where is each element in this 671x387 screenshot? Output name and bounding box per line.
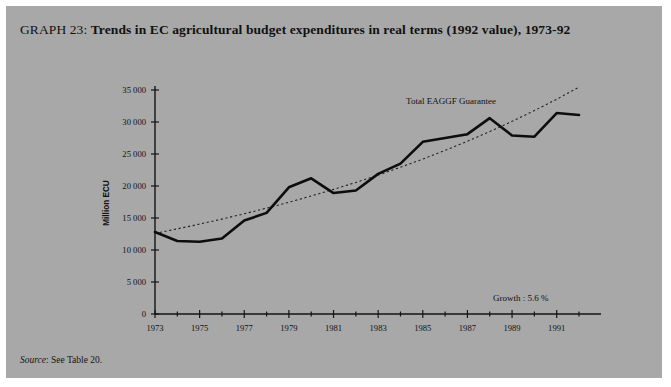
- y-tick-label: 20 000: [122, 181, 146, 191]
- page-canvas: GRAPH 23: Trends in EC agricultural budg…: [6, 6, 662, 378]
- y-tick-label: 0: [142, 309, 146, 319]
- y-tick-label: 35 000: [122, 85, 146, 95]
- x-tick-label: 1977: [236, 323, 254, 333]
- eaggf-guarantee-series: [155, 113, 579, 242]
- x-tick-label: 1991: [548, 323, 565, 333]
- line-chart: 05 00010 00015 00020 00025 00030 00035 0…: [6, 6, 662, 378]
- series-label: Total EAGGF Guarantee: [406, 96, 496, 106]
- chart-area: 05 00010 00015 00020 00025 00030 00035 0…: [6, 6, 662, 378]
- x-tick-label: 1989: [503, 323, 520, 333]
- x-tick-label: 1973: [146, 323, 163, 333]
- x-tick-label: 1987: [459, 323, 477, 333]
- x-tick-label: 1985: [414, 323, 431, 333]
- y-tick-label: 5 000: [127, 277, 146, 287]
- x-tick-label: 1975: [191, 323, 208, 333]
- source-note: Source: See Table 20.: [20, 355, 102, 365]
- y-tick-label: 10 000: [122, 245, 146, 255]
- y-tick-label: 25 000: [122, 149, 146, 159]
- y-axis-title: Million ECU: [102, 180, 111, 226]
- y-axis-ticks: 05 00010 00015 00020 00025 00030 00035 0…: [122, 85, 159, 319]
- x-tick-label: 1979: [280, 323, 297, 333]
- source-text: See Table 20.: [51, 355, 102, 365]
- x-tick-label: 1981: [325, 323, 342, 333]
- y-tick-label: 15 000: [122, 213, 146, 223]
- x-tick-label: 1983: [370, 323, 387, 333]
- y-tick-label: 30 000: [122, 117, 146, 127]
- trend-line-series: [155, 87, 579, 233]
- growth-annotation: Growth : 5.6 %: [493, 293, 549, 303]
- source-label: Source: [20, 355, 46, 365]
